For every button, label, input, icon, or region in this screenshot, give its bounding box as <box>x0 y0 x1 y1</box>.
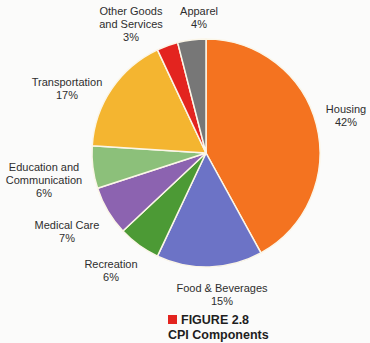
figure-number: FIGURE 2.8 <box>181 313 249 327</box>
label-education: Education and Communication 6% <box>6 161 82 200</box>
label-apparel: Apparel 4% <box>180 5 218 31</box>
label-medical-care: Medical Care 7% <box>35 219 100 245</box>
figure-marker-icon <box>168 315 177 324</box>
label-recreation: Recreation 6% <box>84 258 137 284</box>
figure-caption: FIGURE 2.8 CPI Components <box>168 313 269 343</box>
label-transportation: Transportation 17% <box>32 76 103 102</box>
label-housing: Housing 42% <box>326 103 366 129</box>
figure-title: CPI Components <box>168 328 269 343</box>
label-other-goods: Other Goods and Services 3% <box>99 5 163 44</box>
label-food-beverages: Food & Beverages 15% <box>176 282 267 308</box>
